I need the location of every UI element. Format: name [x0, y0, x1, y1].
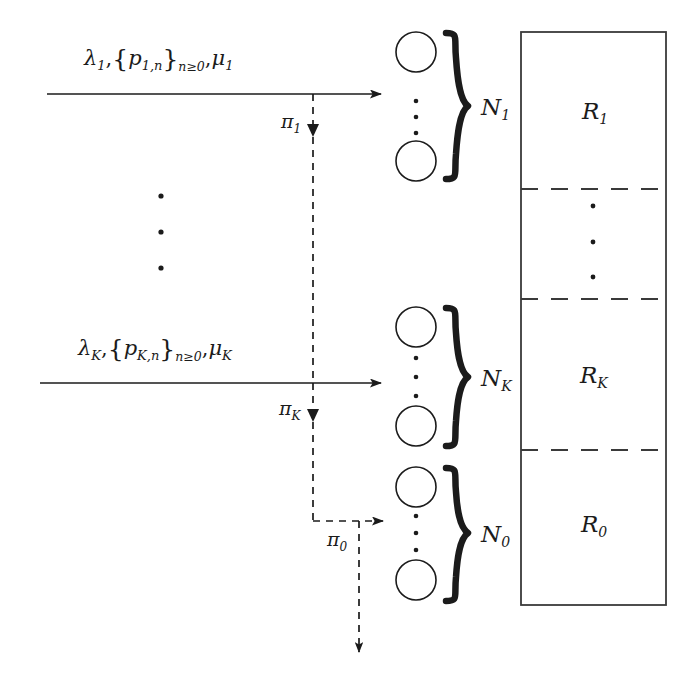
- overflow-dashed-spine-lower: [307, 383, 319, 521]
- figure-canvas: λ1,{p1,n}n≥0,μ1 λK,{pK,n}n≥0,μK π1 πK π0…: [0, 0, 697, 687]
- routing-label-pi-K: πK: [279, 399, 300, 422]
- stream-K-probabilities: pK,n: [124, 336, 160, 360]
- stream-1-probabilities: p1,n: [128, 46, 162, 70]
- stream-1-parameter-label: λ1,{p1,n}n≥0,μ1: [84, 46, 233, 74]
- stream-K-mu: μK: [208, 336, 231, 360]
- server-group-N1-circles: [396, 32, 436, 181]
- overflow-dashed-spine-upper: [307, 94, 319, 383]
- brace-N1: [446, 33, 468, 179]
- resource-block-R1-label: R1: [582, 100, 608, 126]
- routing-label-pi-0: π0: [327, 530, 347, 553]
- brace-N0: [446, 468, 468, 601]
- server-group-N0-circles: [396, 467, 436, 600]
- stream-K-parameter-label: λK,{pK,n}n≥0,μK: [78, 336, 232, 364]
- resource-ellipsis-dots: [591, 204, 596, 280]
- routing-label-pi-1: π1: [281, 112, 301, 135]
- resource-block-R0-label: R0: [581, 513, 607, 539]
- server-group-NK-circles: [396, 307, 436, 446]
- server-group-N1-label: N1: [481, 96, 510, 122]
- resource-block-RK-label: RK: [580, 364, 608, 390]
- brace-NK: [446, 308, 468, 446]
- server-group-N0-label: N0: [481, 523, 510, 549]
- stream-1-mu: μ1: [212, 46, 234, 70]
- stream-1-lambda: λ1: [84, 46, 106, 70]
- server-group-NK-label: NK: [481, 367, 512, 393]
- stream-ellipsis-dots: [158, 193, 163, 270]
- stream-K-lambda: λK: [78, 336, 101, 360]
